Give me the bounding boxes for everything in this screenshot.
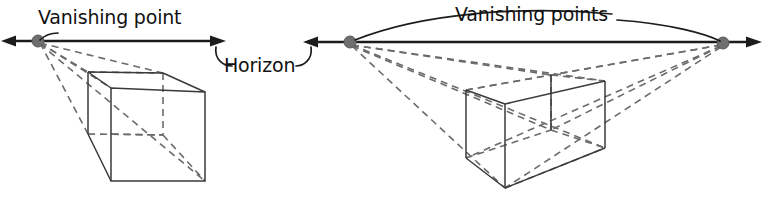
right-diagram-two-point-perspective: Vanishing points: [303, 3, 762, 188]
horizon-arrow-left-icon: [1, 36, 16, 47]
horizon-arrow-right-icon-2: [746, 37, 762, 48]
vanishing-point-dot-left: [32, 35, 44, 47]
horizon-line-right: [303, 37, 762, 48]
perspective-figure: Vanishing point Horizon: [0, 0, 767, 207]
horizon-arrow-right-icon: [210, 36, 226, 47]
horizon-arrow-left-icon-2: [303, 37, 318, 48]
figure-canvas: Vanishing point Horizon: [0, 0, 767, 207]
leader-horizon-right: [296, 47, 311, 66]
box-solid-edges-left: [88, 72, 205, 181]
horizon-label-group: Horizon: [216, 47, 312, 76]
vanishing-point-dot-right-right: [717, 37, 729, 49]
projection-rays-left: [40, 43, 205, 181]
leader-vanishing-points-right: [617, 20, 720, 41]
box-hidden-edges-left: [88, 72, 205, 181]
label-vanishing-points: Vanishing points: [455, 3, 608, 25]
vanishing-point-dot-right-left: [344, 36, 356, 48]
left-diagram-one-point-perspective: Vanishing point: [1, 6, 226, 181]
label-horizon: Horizon: [224, 54, 295, 76]
projection-rays-right-from-left-vp: [352, 45, 605, 188]
label-vanishing-point: Vanishing point: [38, 6, 181, 28]
